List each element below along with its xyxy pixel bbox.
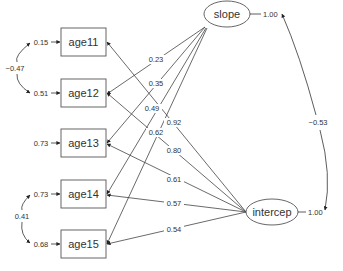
loading-slope-age11: 0.23 [149, 55, 164, 64]
loading-intercep-age15: 0.54 [167, 225, 182, 234]
error-variance-age14: 0.73 [34, 190, 49, 199]
observed-label: age14 [68, 188, 99, 200]
latent-covariance [282, 14, 328, 210]
cov-arc-slope-intercep-bottom [320, 130, 328, 210]
observed-age15[interactable]: age15 [61, 230, 106, 258]
cov-arc-age11-age12-bottom [17, 74, 30, 93]
variance-slope: 1.00 [263, 10, 278, 19]
latent-intercep[interactable]: intercep [246, 199, 298, 225]
observed-label: age11 [69, 36, 99, 48]
observed-label: age15 [68, 238, 99, 250]
loading-intercep-age11: 0.92 [167, 118, 182, 127]
loading-intercep-age14: 0.57 [167, 199, 182, 208]
covariance-age14-age15: 0.41 [15, 212, 30, 221]
latent-label: intercep [252, 206, 291, 218]
cov-arc-age14-age15-bottom [22, 222, 30, 243]
loading-intercep-age13: 0.61 [167, 175, 182, 184]
observed-age12[interactable]: age12 [61, 79, 106, 107]
error-variance-age12: 0.51 [34, 89, 49, 98]
error-variance-labels: 0.15 0.51 0.73 0.73 0.68 [34, 38, 49, 249]
cov-arc-age11-age12-top [17, 43, 30, 62]
cov-arc-age14-age15-top [22, 195, 30, 210]
error-variance-age15: 0.68 [34, 240, 49, 249]
latent-slope[interactable]: slope [204, 1, 250, 27]
error-variance-age11: 0.15 [34, 38, 49, 47]
loading-slope-age12: 0.35 [149, 79, 164, 88]
loading-slope-age14: 0.62 [149, 128, 164, 137]
intercept-loading-paths [107, 42, 246, 244]
observed-age11[interactable]: age11 [61, 28, 106, 56]
observed-age14[interactable]: age14 [61, 180, 106, 208]
loading-intercep-age12: 0.80 [167, 146, 182, 155]
observed-age13[interactable]: age13 [61, 129, 106, 157]
path-diagram: 0.23 0.35 0.49 0.62 0.92 0.80 0.61 0.57 … [0, 0, 343, 271]
loading-slope-age13: 0.49 [145, 104, 160, 113]
covariance-slope-intercep: −0.53 [309, 118, 328, 127]
observed-label: age13 [68, 137, 99, 149]
observed-label: age12 [68, 87, 99, 99]
covariance-age11-age12: −0.47 [6, 64, 25, 73]
variance-intercep: 1.00 [308, 208, 323, 217]
error-variance-age13: 0.73 [34, 139, 49, 148]
cov-arc-slope-intercep-top [282, 14, 316, 115]
observed-variables: age11 age12 age13 age14 age15 [61, 28, 106, 258]
intercept-loading-labels: 0.92 0.80 0.61 0.57 0.54 [164, 118, 184, 234]
latent-label: slope [214, 8, 240, 20]
error-variances [51, 42, 60, 244]
